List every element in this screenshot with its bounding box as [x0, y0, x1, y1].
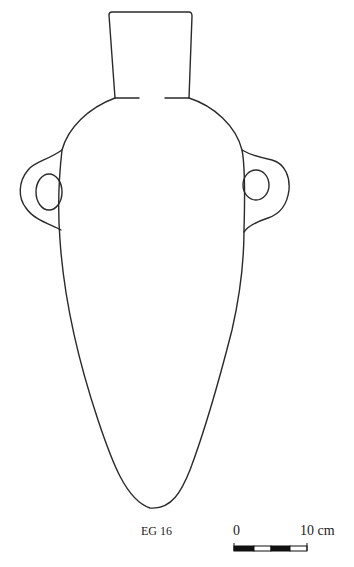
scale-end-label: 10 cm: [300, 523, 335, 539]
catalog-label: EG 16: [141, 524, 172, 539]
handle-right-hole: [243, 170, 269, 200]
amphora-drawing: [0, 0, 354, 567]
amphora-neck: [109, 12, 192, 98]
handle-left: [20, 150, 62, 230]
scale-bar: [234, 543, 307, 551]
scale-start-label: 0: [233, 523, 240, 539]
amphora-body: [59, 98, 245, 508]
handle-right: [242, 150, 289, 232]
handle-left-hole: [36, 174, 62, 210]
